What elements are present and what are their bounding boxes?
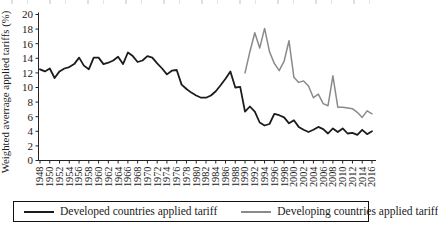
- legend-line-swatch: [24, 211, 54, 213]
- legend-label: Developed countries applied tariff: [60, 206, 217, 218]
- svg-text:12: 12: [22, 67, 33, 79]
- svg-text:10: 10: [22, 81, 34, 93]
- legend-item-developed: Developed countries applied tariff: [24, 206, 217, 218]
- svg-text:2: 2: [28, 140, 34, 152]
- svg-text:0: 0: [28, 154, 34, 166]
- svg-text:4: 4: [28, 125, 34, 137]
- svg-text:2016: 2016: [366, 167, 377, 188]
- legend-line-swatch: [241, 211, 271, 213]
- axes: [39, 13, 377, 161]
- y-axis-ticks: 02468101214161820: [22, 8, 39, 166]
- legend-label: Developing countries applied tariff: [277, 206, 438, 218]
- developed-series-line: [40, 53, 372, 135]
- chart-legend: Developed countries applied tariffDevelo…: [13, 201, 369, 222]
- y-axis-title: Weighted averrage applied tariffs (%): [0, 10, 12, 173]
- svg-text:18: 18: [22, 23, 34, 35]
- svg-text:14: 14: [22, 52, 34, 64]
- tariff-line-chart: 02468101214161820Weighted averrage appli…: [0, 4, 382, 201]
- x-axis-ticks: 1948195019521954195619581960196219641966…: [34, 161, 377, 188]
- svg-text:6: 6: [28, 111, 34, 123]
- legend-item-developing: Developing countries applied tariff: [241, 206, 438, 218]
- svg-text:16: 16: [22, 38, 34, 50]
- svg-text:8: 8: [28, 96, 34, 108]
- svg-text:20: 20: [22, 8, 34, 20]
- developing-series-line: [245, 28, 372, 117]
